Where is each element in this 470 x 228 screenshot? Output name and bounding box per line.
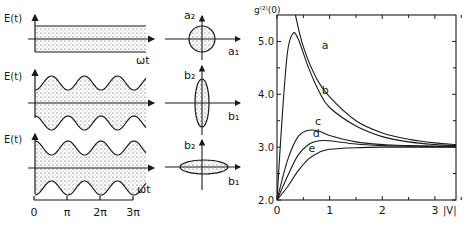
- curves: [277, 15, 456, 200]
- tick-label: 3π: [126, 206, 140, 219]
- x-axis-label: ωt: [137, 183, 151, 196]
- curve-c: [277, 130, 456, 200]
- x-axis-label: a₁: [228, 45, 239, 58]
- x-axis-label: b₁: [228, 175, 239, 188]
- curve-e: [277, 147, 456, 200]
- x-axis-label: ωt: [136, 54, 150, 67]
- y-tick-label: 3.0: [258, 142, 274, 153]
- y-axis-label: E(t): [4, 13, 22, 24]
- x-axis-label: |V|: [443, 205, 457, 217]
- figure: E(t) ωt E(t) E(t) ωt: [0, 0, 470, 228]
- x-axis-label: b₁: [228, 110, 239, 123]
- y-axis-label: b₂: [184, 69, 195, 82]
- tick-label: 2π: [93, 206, 107, 219]
- phase-space-vertical-ellipse: b₂ b₁: [165, 66, 240, 135]
- x-tick-label: 1: [326, 204, 333, 217]
- y-tick-label: 2.0: [258, 195, 274, 206]
- curve-b: [277, 33, 456, 200]
- y-tick-label: 4.0: [258, 89, 274, 100]
- y-axis-label: E(t): [4, 71, 22, 82]
- x-tick-label: 2: [379, 204, 386, 217]
- tick-label: 0: [31, 206, 38, 219]
- curve-labels: abcde: [309, 39, 329, 155]
- curve-label-a: a: [322, 39, 329, 52]
- curve-d: [277, 140, 456, 200]
- phase-space-circle: a₂ a₁: [165, 9, 240, 60]
- y-tick-label: 5.0: [258, 36, 274, 47]
- left-panel: E(t) ωt E(t) E(t) ωt: [4, 13, 154, 219]
- time-plot-coherent: E(t) ωt: [4, 13, 154, 67]
- plot-frame: [277, 15, 456, 200]
- phase-space-panel: a₂ a₁ b₂ b₁ b₂ b₁: [165, 9, 240, 190]
- x-tick-label: 0: [274, 204, 281, 217]
- tick-label: π: [64, 206, 71, 219]
- y-axis-label: a₂: [184, 9, 195, 22]
- phase-space-horizontal-ellipse: b₂ b₁: [165, 139, 240, 190]
- x-tick-label: 3: [431, 204, 438, 217]
- phase-tick-axis: 0 π 2π 3π: [31, 196, 141, 219]
- time-plot-phase-squeezed: E(t) ωt: [4, 134, 154, 196]
- y-axis-label: b₂: [184, 139, 195, 152]
- y-axis-label: g⁽²⁾(0): [254, 5, 281, 15]
- g2-plot: g⁽²⁾(0) |V| 2.03.04.05.00123 abcde: [254, 5, 461, 217]
- curve-label-d: d: [313, 127, 320, 140]
- y-axis-label: E(t): [4, 134, 22, 145]
- curve-label-b: b: [322, 84, 329, 97]
- time-plot-amplitude-squeezed: E(t): [4, 70, 154, 130]
- curve-label-e: e: [309, 142, 316, 155]
